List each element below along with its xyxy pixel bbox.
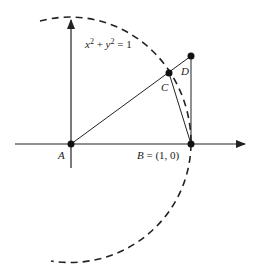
unit-circle-arc-top (40, 17, 191, 144)
label-D: D (180, 65, 189, 77)
circle-equation-label: x2 + y2 = 1 (84, 37, 132, 50)
point-D-dot (188, 53, 195, 60)
label-C: C (161, 81, 169, 93)
segment-AD (71, 56, 191, 144)
point-B-dot (188, 141, 195, 148)
segment-CB (169, 73, 191, 144)
unit-circle-arc-bottom (51, 144, 191, 262)
point-C-dot (166, 70, 173, 77)
label-A: A (57, 149, 65, 161)
point-A-dot (68, 141, 75, 148)
label-B: B = (1, 0) (137, 149, 180, 162)
unit-circle-diagram: x2 + y2 = 1 A B = (1, 0) C D (0, 0, 254, 277)
